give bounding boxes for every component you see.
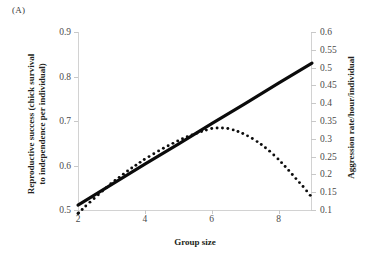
series-dot [114, 179, 117, 182]
series-dot [210, 127, 213, 130]
series-dot [122, 173, 125, 176]
series-dot [246, 134, 249, 137]
y-axis-right-tick-label: 0.3 [320, 134, 332, 144]
series-dot [264, 146, 267, 149]
y-axis-left-tick-label: 0.5 [59, 205, 71, 215]
series-dot [171, 142, 174, 145]
series-dot [291, 173, 294, 176]
series-dot [101, 190, 104, 193]
series-dot [305, 189, 308, 192]
series-dot [134, 164, 137, 167]
series-dot [157, 149, 160, 152]
x-axis-tick-label: 2 [76, 214, 81, 224]
series-dot [109, 182, 112, 185]
series-dot [272, 154, 275, 157]
y-axis-right-title: Aggression rate/hour/individual [346, 23, 357, 213]
series-dot [167, 144, 170, 147]
series-dot [77, 212, 80, 215]
y-axis-left-title-line1: Reproductive success (chick survival [26, 29, 37, 219]
y-axis-right-tick-label: 0.4 [320, 98, 332, 108]
series-dot [162, 147, 165, 150]
series-dot [287, 169, 290, 172]
series-dot [302, 185, 305, 188]
y-axis-right-tick-label: 0.35 [320, 116, 337, 126]
series-dot [81, 208, 84, 211]
y-axis-left-tick-label: 0.9 [59, 27, 71, 37]
y-axis-right-tick-label: 0.25 [320, 152, 337, 162]
series-dot [260, 143, 263, 146]
series-dot [130, 167, 133, 170]
series-dot [126, 169, 129, 172]
series-dot [277, 157, 280, 160]
y-axis-left-tick-label: 0.7 [59, 116, 71, 126]
series-dot [118, 176, 121, 179]
series-layer [78, 32, 312, 210]
series-dot [280, 161, 283, 164]
y-axis-right-tick-label: 0.2 [320, 169, 332, 179]
series-dot [97, 193, 100, 196]
y-axis-left-tick-label: 0.6 [59, 161, 71, 171]
series-dot [93, 197, 96, 200]
series-dot [294, 177, 297, 180]
y-axis-right-tick [311, 210, 316, 211]
series-dot [105, 186, 108, 189]
series-dot [181, 137, 184, 140]
y-axis-left-title: Reproductive success (chick survival to … [26, 29, 48, 219]
series-dot [205, 129, 208, 132]
series-dot [84, 205, 87, 208]
x-axis-title: Group size [78, 237, 312, 248]
y-axis-left-tick-label: 0.8 [59, 72, 71, 82]
plot-area: 0.50.60.70.80.9 0.10.150.20.250.30.350.4… [78, 32, 312, 210]
x-axis-tick-label: 6 [209, 214, 214, 224]
series-dot [152, 152, 155, 155]
series-dot [176, 139, 179, 142]
series-dot [237, 130, 240, 133]
series-dot [139, 161, 142, 164]
y-axis-left-title-line2: to independence per individual) [37, 29, 48, 219]
series-dot [241, 132, 244, 135]
series-dot [186, 135, 189, 138]
x-axis-line [78, 210, 312, 211]
series-dot [232, 128, 235, 131]
series-aggression-rate-dotted [77, 127, 312, 215]
series-dot [256, 140, 259, 143]
x-axis-tick-label: 8 [276, 214, 281, 224]
y-axis-right-tick-label: 0.45 [320, 80, 337, 90]
y-axis-right-tick-label: 0.15 [320, 187, 337, 197]
series-dot [88, 201, 91, 204]
y-axis-right-tick-label: 0.1 [320, 205, 332, 215]
series-dot [268, 150, 271, 153]
y-axis-right-tick-label: 0.55 [320, 45, 337, 55]
y-axis-right-tick-label: 0.5 [320, 63, 332, 73]
figure-panel-a: (A) Reproductive success (chick survival… [0, 0, 367, 264]
series-dot [251, 137, 254, 140]
series-dot [226, 127, 229, 130]
series-reproductive-success-line [78, 63, 312, 205]
series-dot [143, 158, 146, 161]
panel-label: (A) [12, 5, 25, 15]
series-dot [298, 181, 301, 184]
series-dot [195, 132, 198, 135]
series-dot [309, 194, 312, 197]
series-dot [221, 127, 224, 130]
y-axis-right-tick-label: 0.6 [320, 27, 332, 37]
series-dot [216, 127, 219, 130]
x-axis-tick-label: 4 [142, 214, 147, 224]
series-dot [200, 130, 203, 133]
series-dot [148, 155, 151, 158]
series-dot [191, 134, 194, 137]
series-dot [284, 165, 287, 168]
